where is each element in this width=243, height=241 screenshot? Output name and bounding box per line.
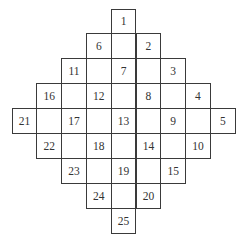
cell-number: 5: [220, 115, 226, 127]
cell-number: 6: [96, 40, 102, 52]
cell-number: 11: [68, 65, 79, 77]
cell-number: 18: [93, 140, 105, 152]
grid-cell-13: 13: [111, 108, 137, 134]
grid-cell-empty: [111, 33, 137, 59]
grid-cell-empty: [86, 58, 112, 84]
grid-cell-7: 7: [111, 58, 137, 84]
cell-number: 1: [121, 15, 127, 27]
cell-number: 23: [68, 165, 80, 177]
grid-cell-24: 24: [86, 183, 112, 209]
grid-cell-22: 22: [36, 133, 62, 159]
grid-cell-empty: [86, 108, 112, 134]
cell-number: 8: [146, 90, 152, 102]
grid-cell-10: 10: [185, 133, 211, 159]
cell-number: 13: [118, 115, 130, 127]
grid-cell-23: 23: [61, 158, 87, 184]
cell-number: 25: [118, 215, 130, 227]
grid-cell-8: 8: [136, 83, 162, 109]
grid-cell-empty: [160, 133, 186, 159]
cell-number: 20: [143, 190, 155, 202]
grid-cell-19: 19: [111, 158, 137, 184]
grid-cell-empty: [36, 108, 62, 134]
cell-number: 17: [68, 115, 80, 127]
cell-number: 2: [146, 40, 152, 52]
cell-number: 22: [43, 140, 55, 152]
diamond-grid: 1621173161284211713952218141023191524202…: [0, 0, 243, 241]
grid-cell-empty: [185, 108, 211, 134]
grid-cell-11: 11: [61, 58, 87, 84]
grid-cell-25: 25: [111, 208, 137, 234]
cell-number: 14: [143, 140, 155, 152]
grid-cell-empty: [111, 183, 137, 209]
grid-cell-12: 12: [86, 83, 112, 109]
grid-cell-empty: [136, 58, 162, 84]
cell-number: 4: [195, 90, 201, 102]
grid-cell-3: 3: [160, 58, 186, 84]
grid-cell-empty: [160, 83, 186, 109]
cell-number: 9: [170, 115, 176, 127]
grid-cell-20: 20: [136, 183, 162, 209]
grid-cell-empty: [61, 133, 87, 159]
grid-cell-6: 6: [86, 33, 112, 59]
grid-cell-1: 1: [111, 9, 137, 35]
cell-number: 24: [93, 190, 105, 202]
grid-cell-16: 16: [36, 83, 62, 109]
cell-number: 12: [93, 90, 105, 102]
cell-number: 19: [118, 165, 130, 177]
grid-cell-18: 18: [86, 133, 112, 159]
grid-cell-9: 9: [160, 108, 186, 134]
grid-cell-14: 14: [136, 133, 162, 159]
grid-cell-4: 4: [185, 83, 211, 109]
grid-cell-2: 2: [136, 33, 162, 59]
cell-number: 3: [170, 65, 176, 77]
cell-number: 10: [192, 140, 204, 152]
cell-number: 15: [167, 165, 179, 177]
grid-cell-empty: [136, 158, 162, 184]
grid-cell-empty: [111, 133, 137, 159]
grid-cell-empty: [111, 83, 137, 109]
grid-cell-21: 21: [12, 108, 38, 134]
grid-cell-15: 15: [160, 158, 186, 184]
grid-cell-empty: [86, 158, 112, 184]
grid-cell-17: 17: [61, 108, 87, 134]
grid-cell-empty: [61, 83, 87, 109]
cell-number: 21: [19, 115, 31, 127]
cell-number: 7: [121, 65, 127, 77]
cell-number: 16: [43, 90, 55, 102]
grid-cell-5: 5: [210, 108, 236, 134]
grid-cell-empty: [136, 108, 162, 134]
